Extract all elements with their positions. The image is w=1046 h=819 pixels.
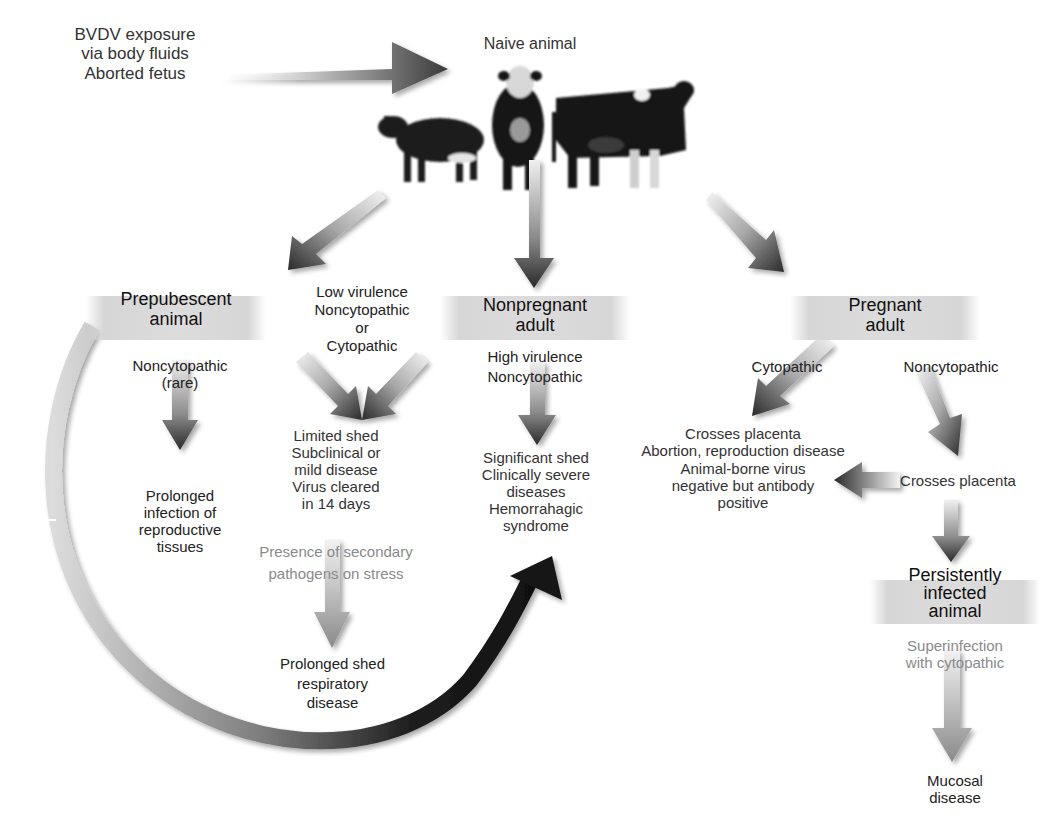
outcome-line: Mucosal	[905, 772, 1005, 789]
strain-line: Low virulence	[282, 283, 442, 301]
prepubescent-outcome: Prolonged infection of reproductive tiss…	[115, 487, 245, 555]
outcome-line: Abortion, reproduction disease	[628, 442, 858, 459]
pregnant-noncytopathic-label: Noncytopathic	[886, 358, 1016, 375]
pregnant-cytopathic-label: Cytopathic	[732, 358, 842, 375]
superinfection-note: Superinfection with cytopathic	[890, 637, 1020, 671]
arrow-to-persistently-infected	[932, 500, 970, 562]
pregnant-title: Pregnant adult	[810, 295, 960, 335]
outcome-line: positive	[628, 494, 858, 511]
title-line: Prepubescent	[96, 289, 256, 309]
title-line: Pregnant	[810, 295, 960, 315]
low-virulence-strain: Low virulence Noncytopathic or Cytopathi…	[282, 283, 442, 355]
outcome-line: tissues	[115, 538, 245, 555]
diagram-canvas	[0, 0, 1046, 819]
outcome-line: Crosses placenta	[628, 425, 858, 442]
cytopathic-text: Cytopathic	[752, 358, 823, 375]
outcome-line: negative but antibody	[628, 477, 858, 494]
outcome-line: Limited shed	[276, 427, 396, 444]
note-line: with cytopathic	[890, 654, 1020, 671]
title-line: Persistently	[880, 566, 1030, 584]
strain-line: Cytopathic	[282, 337, 442, 355]
nonpregnant-strain: High virulence Noncytopathic	[465, 347, 605, 386]
persistent-title: Persistently infected animal	[880, 566, 1030, 620]
outcome-line: Significant shed	[466, 449, 606, 466]
arrow-to-nonpregnant	[514, 160, 554, 288]
arrow-pregnant-cytopathic	[752, 336, 834, 416]
note-line: Presence of secondary	[246, 541, 426, 563]
arrow-pregnant-noncytopathic	[916, 366, 962, 456]
outcome-line: diseases	[466, 483, 606, 500]
prolonged-shed-outcome: Prolonged shed respiratory disease	[270, 654, 395, 713]
title-line: adult	[450, 315, 620, 335]
outcome-line: syndrome	[466, 517, 606, 534]
outcome-line: reproductive	[115, 521, 245, 538]
outcome-line: respiratory	[270, 674, 395, 694]
arrow-to-low-virulence	[288, 190, 386, 270]
cow-icon	[552, 81, 694, 188]
outcome-line: Virus cleared	[276, 478, 396, 495]
nonpregnant-title: Nonpregnant adult	[450, 295, 620, 335]
arrow-to-pregnant	[706, 192, 784, 272]
outcome-line: disease	[270, 693, 395, 713]
title-line: animal	[96, 309, 256, 329]
strain-line: Noncytopathic	[110, 357, 250, 374]
outcome-line: Prolonged	[115, 487, 245, 504]
strain-line: or	[282, 319, 442, 337]
calf-icon	[378, 116, 484, 182]
outcome-line: in 14 days	[276, 495, 396, 512]
low-virulence-outcome: Limited shed Subclinical or mild disease…	[276, 427, 396, 512]
note-line: Superinfection	[890, 637, 1020, 654]
prepubescent-title: Prepubescent animal	[96, 289, 256, 329]
exposure-label: BVDV exposure via body fluids Aborted fe…	[50, 25, 220, 83]
noncytopathic-text: Noncytopathic	[903, 358, 998, 375]
outcome-line: Animal-borne virus	[628, 460, 858, 477]
outcome-line: Hemorrahagic	[466, 500, 606, 517]
outcome-line: Clinically severe	[466, 466, 606, 483]
outcome-line: mild disease	[276, 461, 396, 478]
outcome-line: infection of	[115, 504, 245, 521]
strain-line: High virulence	[465, 347, 605, 367]
strain-line: (rare)	[110, 374, 250, 391]
mucosal-disease-outcome: Mucosal disease	[905, 772, 1005, 806]
naive-animal-label: Naive animal	[470, 35, 590, 53]
secondary-pathogens-note: Presence of secondary pathogens on stres…	[246, 541, 426, 585]
exposure-line: Aborted fetus	[50, 64, 220, 83]
note-line: pathogens on stress	[246, 563, 426, 585]
title-line: Nonpregnant	[450, 295, 620, 315]
exposure-arrow	[218, 42, 448, 94]
strain-line: Noncytopathic	[465, 367, 605, 387]
title-line: animal	[880, 602, 1030, 620]
prepubescent-strain: Noncytopathic (rare)	[110, 357, 250, 391]
outcome-line: Subclinical or	[276, 444, 396, 461]
outcome-line: disease	[905, 789, 1005, 806]
arrows-low-virulence-converge	[296, 352, 428, 420]
naive-animal-text: Naive animal	[484, 35, 576, 52]
nonpregnant-outcome: Significant shed Clinically severe disea…	[466, 449, 606, 534]
pregnant-cytopathic-outcome: Crosses placenta Abortion, reproduction …	[628, 425, 858, 511]
strain-line: Noncytopathic	[282, 301, 442, 319]
exposure-line: via body fluids	[50, 44, 220, 63]
crosses-placenta-text: Crosses placenta	[900, 472, 1016, 489]
title-line: infected	[880, 584, 1030, 602]
outcome-line: Prolonged shed	[270, 654, 395, 674]
crosses-placenta-label: Crosses placenta	[893, 472, 1023, 489]
title-line: adult	[810, 315, 960, 335]
exposure-line: BVDV exposure	[50, 25, 220, 44]
